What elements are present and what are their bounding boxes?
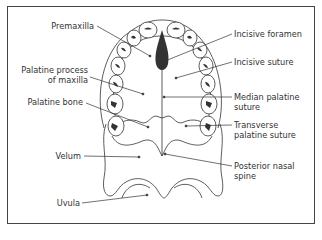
label-incisive-foramen: Incisive foramen xyxy=(234,29,302,39)
label-palatine-process: Palatine processof maxilla xyxy=(16,65,88,85)
label-transverse-palatine-suture: Transversepalatine suture xyxy=(234,120,296,140)
label-premaxilla: Premaxilla xyxy=(42,21,94,31)
label-incisive-suture: Incisive suture xyxy=(234,57,293,67)
label-palatine-bone: Palatine bone xyxy=(16,97,83,107)
label-median-palatine-suture: Median palatinesuture xyxy=(234,92,300,112)
uvula-arc-right xyxy=(174,184,202,198)
label-velum: Velum xyxy=(40,151,81,161)
label-posterior-nasal-spine: Posterior nasalspine xyxy=(234,161,295,181)
label-uvula: Uvula xyxy=(40,198,80,208)
uvula-arc-left xyxy=(122,184,150,198)
